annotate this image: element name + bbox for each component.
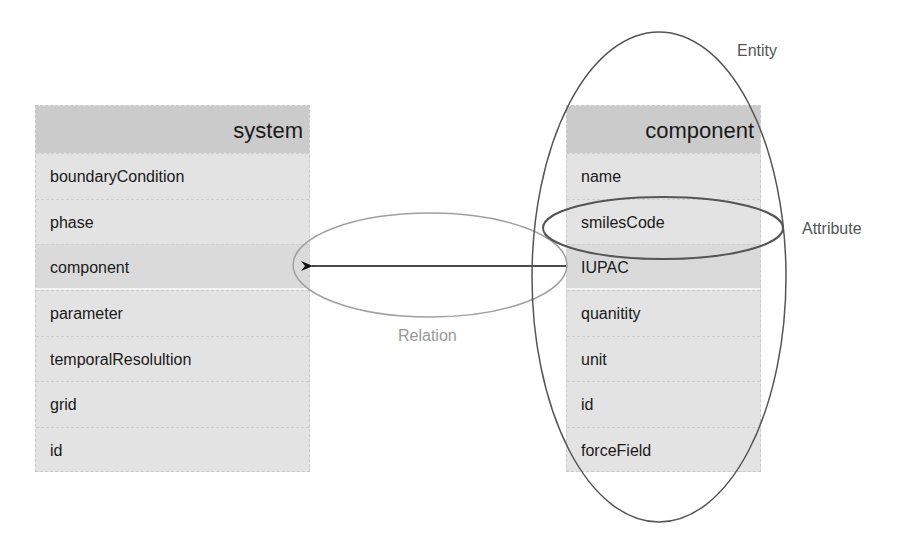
system-table: system boundaryCondition phase component… bbox=[35, 105, 310, 472]
component-field-id: id bbox=[567, 381, 760, 427]
component-field-unit: unit bbox=[567, 336, 760, 382]
component-field-iupac: IUPAC bbox=[567, 244, 760, 290]
entity-label: Entity bbox=[737, 42, 777, 60]
relation-ellipse bbox=[293, 213, 567, 317]
system-field-id: id bbox=[36, 427, 309, 473]
system-field-parameter: parameter bbox=[36, 290, 309, 336]
relation-label: Relation bbox=[398, 327, 457, 345]
component-field-quantity: quanitity bbox=[567, 290, 760, 336]
system-field-grid: grid bbox=[36, 381, 309, 427]
system-field-temporalresolution: temporalResolultion bbox=[36, 336, 309, 382]
component-field-smilescode: smilesCode bbox=[567, 199, 760, 245]
system-field-phase: phase bbox=[36, 199, 309, 245]
system-table-header: system bbox=[36, 106, 309, 153]
component-field-name: name bbox=[567, 153, 760, 199]
system-field-component: component bbox=[36, 244, 309, 290]
system-field-boundarycondition: boundaryCondition bbox=[36, 153, 309, 199]
attribute-label: Attribute bbox=[802, 220, 862, 238]
component-table-header: component bbox=[567, 106, 760, 153]
component-table: component name smilesCode IUPAC quanitit… bbox=[566, 105, 761, 472]
component-field-forcefield: forceField bbox=[567, 427, 760, 473]
